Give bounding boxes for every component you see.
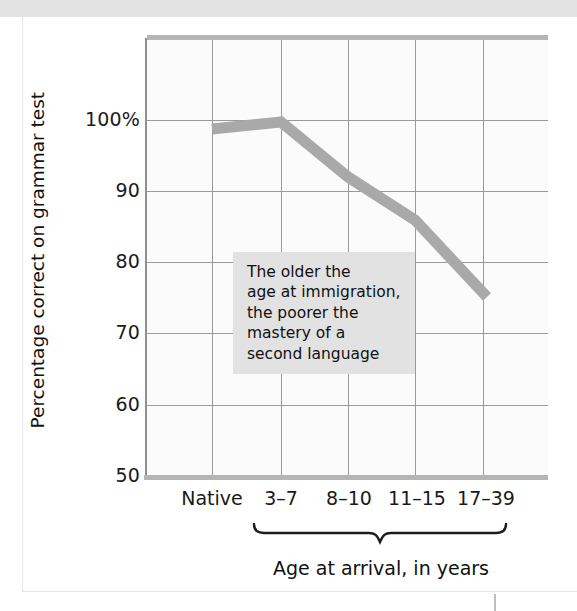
x-tick-label-8-10: 8–10 [326, 487, 372, 509]
y-tick-label-70: 70 [2, 321, 140, 343]
x-axis-title: Age at arrival, in years [253, 557, 509, 579]
x-tick-label-17-39: 17–39 [457, 487, 515, 509]
gridline-x-11-15 [415, 38, 416, 478]
chart-annotation-callout: The older the age at immigration, the po… [233, 252, 415, 374]
y-axis-line [145, 38, 147, 478]
annotation-line-4: mastery of a [247, 323, 405, 343]
y-tick-label-group: 100% 90 80 70 60 50 [0, 0, 140, 611]
y-tick-label-60: 60 [2, 393, 140, 415]
x-axis-line [144, 475, 548, 480]
y-tick-label-100: 100% [2, 108, 140, 130]
x-tick-label-3-7: 3–7 [264, 487, 298, 509]
y-tick-label-90: 90 [2, 179, 140, 201]
plot-top-rule [147, 35, 548, 40]
figure-line-chart: 100% 90 80 70 60 50 Percentage correct o… [0, 0, 577, 611]
gridline-x-native [212, 38, 213, 478]
x-tick-label-11-15: 11–15 [388, 487, 446, 509]
gridline-x-17-39 [483, 38, 484, 478]
annotation-line-3: the poorer the [247, 303, 405, 323]
annotation-line-5: second language [247, 344, 405, 364]
annotation-line-1: The older the [247, 262, 405, 282]
age-groups-brace [251, 522, 510, 552]
annotation-line-2: age at immigration, [247, 282, 405, 302]
x-tick-label-native: Native [181, 487, 243, 509]
y-tick-label-80: 80 [2, 250, 140, 272]
y-tick-label-50: 50 [2, 464, 140, 486]
y-axis-title: Percentage correct on grammar test [27, 109, 48, 429]
